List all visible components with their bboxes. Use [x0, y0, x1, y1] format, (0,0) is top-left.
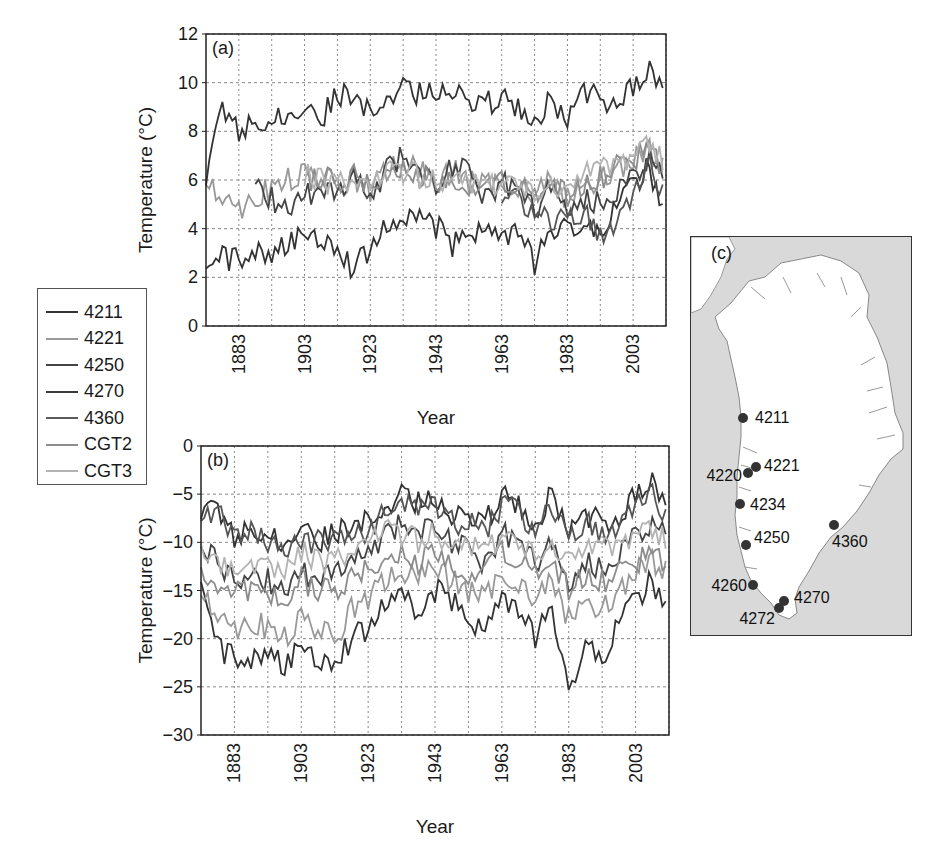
greenland-landmass	[715, 255, 903, 619]
station-marker-4272: 4272	[739, 603, 784, 627]
chart-a-svg: 0246810121883190319231943196319832003Yea…	[130, 0, 690, 425]
svg-text:1903: 1903	[291, 743, 311, 783]
legend-label: 4270	[84, 381, 124, 402]
panel-label: (b)	[207, 450, 229, 470]
station-dot	[751, 462, 761, 472]
legend-item-4270: 4270	[38, 379, 124, 405]
svg-text:2003: 2003	[623, 334, 643, 374]
station-dot	[741, 540, 751, 550]
station-label: 4360	[832, 533, 868, 550]
svg-text:0: 0	[183, 436, 193, 456]
legend-swatch	[46, 444, 78, 446]
svg-text:2003: 2003	[626, 743, 646, 783]
panel-c-label: (c)	[711, 243, 732, 264]
svg-text:1963: 1963	[492, 743, 512, 783]
legend-label: 4360	[84, 408, 124, 429]
svg-text:1883: 1883	[229, 334, 249, 374]
station-label: 4260	[711, 577, 747, 594]
svg-text:1903: 1903	[295, 334, 315, 374]
svg-text:0: 0	[188, 316, 198, 336]
svg-text:−25: −25	[162, 677, 193, 697]
station-label: 4221	[764, 457, 800, 474]
svg-text:6: 6	[188, 170, 198, 190]
x-axis-title: Year	[417, 407, 456, 425]
svg-text:−15: −15	[162, 581, 193, 601]
station-label: 4250	[754, 529, 790, 546]
station-marker-4360: 4360	[829, 520, 868, 550]
legend-item-4250: 4250	[38, 352, 124, 378]
legend-swatch	[46, 364, 78, 366]
svg-text:12: 12	[178, 24, 198, 44]
svg-text:2: 2	[188, 267, 198, 287]
station-dot	[829, 520, 839, 530]
station-label: 4220	[706, 467, 742, 484]
svg-text:−10: −10	[162, 532, 193, 552]
legend-label: 4221	[84, 328, 124, 349]
svg-text:1923: 1923	[360, 334, 380, 374]
svg-text:1983: 1983	[559, 743, 579, 783]
svg-text:−30: −30	[162, 725, 193, 745]
svg-text:−5: −5	[172, 484, 193, 504]
svg-text:1923: 1923	[358, 743, 378, 783]
x-axis-title: Year	[416, 816, 455, 837]
y-tick-labels: 024681012	[178, 24, 206, 336]
station-dot	[748, 580, 758, 590]
series-line-4270	[201, 473, 666, 552]
legend-swatch	[46, 311, 78, 313]
panel-b: 0−5−10−15−20−25−301883190319231943196319…	[130, 430, 690, 855]
legend-item-4221: 4221	[38, 326, 124, 352]
station-dot	[735, 499, 745, 509]
panel-label: (a)	[212, 38, 234, 58]
series-lines	[201, 473, 666, 690]
y-axis-title: Temperature (°C)	[135, 518, 156, 664]
legend-label: CGT2	[84, 434, 132, 455]
station-dot	[743, 468, 753, 478]
map-panel: 421142204221423442504260427042724360 (c)	[690, 236, 912, 636]
svg-text:−20: −20	[162, 629, 193, 649]
svg-text:1943: 1943	[426, 334, 446, 374]
svg-text:1943: 1943	[425, 743, 445, 783]
series-lines	[206, 61, 663, 278]
chart-b-svg: 0−5−10−15−20−25−301883190319231943196319…	[130, 430, 690, 855]
x-tick-labels: 1883190319231943196319832003	[224, 743, 645, 783]
series-line-4360	[201, 484, 666, 557]
station-dot	[738, 413, 748, 423]
legend-swatch	[46, 391, 78, 393]
legend-swatch	[46, 470, 78, 472]
legend-item-cgt3: CGT3	[38, 458, 132, 484]
legend-label: CGT3	[84, 461, 132, 482]
panel-a: 0246810121883190319231943196319832003Yea…	[130, 0, 690, 425]
x-tick-labels: 1883190319231943196319832003	[229, 334, 643, 374]
series-line-4270	[206, 61, 663, 186]
y-tick-labels: 0−5−10−15−20−25−30	[162, 436, 201, 745]
legend-item-4211: 4211	[38, 299, 123, 325]
greenland-map-svg: 421142204221423442504260427042724360	[691, 237, 912, 636]
legend-item-cgt2: CGT2	[38, 432, 132, 458]
svg-text:1963: 1963	[492, 334, 512, 374]
svg-text:4: 4	[188, 219, 198, 239]
station-label: 4234	[750, 496, 786, 513]
svg-text:1983: 1983	[557, 334, 577, 374]
station-label: 4272	[739, 610, 775, 627]
y-axis-title: Temperature (°C)	[135, 107, 156, 253]
grid	[206, 34, 666, 326]
svg-text:8: 8	[188, 121, 198, 141]
station-label: 4270	[794, 589, 830, 606]
svg-text:1883: 1883	[224, 743, 244, 783]
svg-text:10: 10	[178, 73, 198, 93]
legend-swatch	[46, 338, 78, 340]
legend-label: 4211	[84, 302, 123, 323]
legend-swatch	[46, 417, 78, 419]
legend-label: 4250	[84, 355, 124, 376]
legend-item-4360: 4360	[38, 405, 124, 431]
station-dot	[774, 603, 784, 613]
station-label: 4211	[755, 409, 790, 426]
